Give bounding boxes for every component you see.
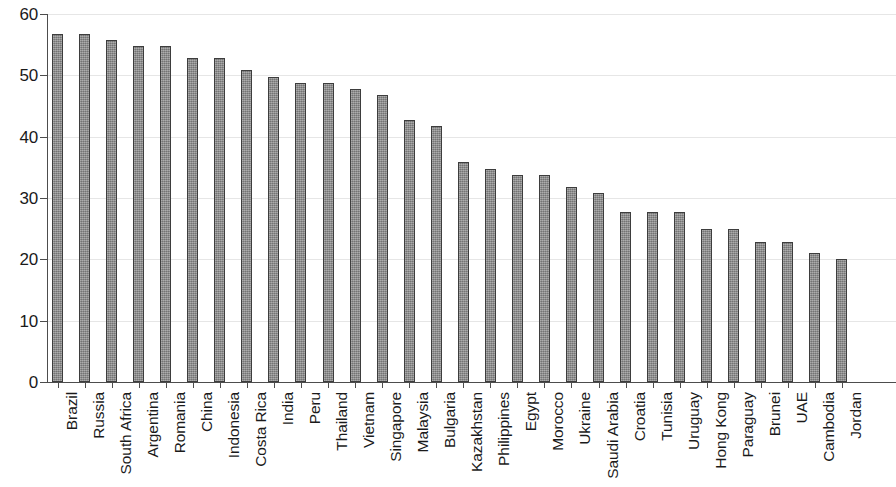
bar [755,242,766,382]
y-axis-tick-label: 10 [4,312,38,329]
y-axis-tick [40,14,48,15]
x-axis-tick [409,383,410,388]
x-axis-tick [463,383,464,388]
bar [79,34,90,382]
bar [566,187,577,382]
y-axis-tick [40,75,48,76]
x-axis-tick [166,383,167,388]
x-axis-tick [355,383,356,388]
x-axis-tick-label: Uruguay [686,392,702,450]
bar [782,242,793,382]
x-axis-tick-label: Jordan [848,392,864,439]
y-axis-tick [40,382,48,383]
x-axis-tick-label: UAE [794,392,810,424]
x-axis-tick-label: Costa Rica [253,392,269,467]
x-axis-tick [788,383,789,388]
y-axis-labels: 0102030405060 [0,0,38,487]
bar [485,169,496,382]
x-axis-tick-label: Vietnam [361,392,377,448]
bar [809,253,820,382]
x-axis-tick [490,383,491,388]
gridline [47,321,896,322]
x-axis-tick-label: Singapore [388,392,404,462]
bar [431,126,442,382]
bar [404,120,415,382]
x-axis-tick [626,383,627,388]
x-axis-tick [707,383,708,388]
x-axis-tick [815,383,816,388]
x-axis-tick-label: Romania [172,392,188,453]
bar [160,46,171,382]
bar [377,95,388,382]
x-axis-tick [382,383,383,388]
gridline [47,75,896,76]
x-axis-tick [58,383,59,388]
x-axis-tick-label: India [280,392,296,425]
gridline [47,14,896,15]
x-axis-tick [544,383,545,388]
x-axis-tick-label: Bulgaria [442,392,458,448]
x-axis-tick [328,383,329,388]
y-axis-tick-label: 20 [4,251,38,268]
x-axis-tick [112,383,113,388]
x-axis-tick [680,383,681,388]
bar [106,40,117,382]
x-axis-tick-label: Cambodia [821,392,837,462]
x-axis-tick-label: Hong Kong [713,392,729,469]
x-axis-tick-label: Argentina [145,392,161,457]
x-axis-tick [274,383,275,388]
x-axis-tick-label: Egypt [523,392,539,431]
bar [350,89,361,382]
x-axis-tick-label: Malaysia [415,392,431,452]
gridline [47,198,896,199]
y-axis-tick-label: 30 [4,190,38,207]
bar [241,70,252,382]
bar [539,175,550,382]
x-axis-tick-label: Philippines [496,392,512,466]
x-axis-tick [599,383,600,388]
x-axis-tick-label: Indonesia [226,392,242,458]
y-axis-tick [40,321,48,322]
x-axis-tick [653,383,654,388]
bar [187,58,198,382]
bar [52,34,63,382]
x-axis-tick [247,383,248,388]
bar [268,77,279,382]
bar [674,212,685,383]
x-axis-tick [517,383,518,388]
x-axis-tick-label: Tunisia [659,392,675,441]
gridline [47,137,896,138]
bar [701,229,712,382]
bar [512,175,523,382]
bar [620,212,631,383]
x-axis-tick-label: Kazakhstan [469,392,485,472]
y-axis-tick [40,198,48,199]
x-axis-tick-label: Thailand [334,392,350,451]
x-axis-tick [193,383,194,388]
bar [836,259,847,382]
bar [133,46,144,382]
x-axis-tick-label: Paraguay [740,392,756,458]
y-axis-tick [40,259,48,260]
x-axis-tick-label: Ukraine [577,392,593,445]
x-axis-tick-label: Croatia [632,392,648,441]
x-axis-tick [571,383,572,388]
bar [323,83,334,382]
x-axis-tick [734,383,735,388]
gridline [47,259,896,260]
x-axis-tick-label: Brazil [64,392,80,430]
y-axis-tick-label: 50 [4,67,38,84]
x-axis-tick [220,383,221,388]
bar [728,229,739,382]
x-axis-tick-label: China [199,392,215,432]
x-axis-tick-label: South Africa [118,392,134,474]
bar [458,162,469,382]
x-axis-tick-label: Peru [307,392,323,424]
y-axis-tick [40,137,48,138]
x-axis-tick [436,383,437,388]
x-axis-tick [139,383,140,388]
plot-area [47,14,896,382]
y-axis-tick-label: 0 [4,374,38,391]
bar [593,193,604,382]
y-axis-tick-label: 60 [4,6,38,23]
